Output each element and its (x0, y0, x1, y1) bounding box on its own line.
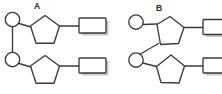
nucleotide-diagram: A B (0, 0, 222, 94)
circle-phosphate-icon-b2 (129, 53, 143, 67)
nucleotide-a2 (5, 52, 108, 83)
pentagon-sugar-icon-a2 (31, 56, 60, 84)
backbone-link-b (140, 44, 159, 55)
panel-label-b: B (156, 3, 162, 13)
nucleotide-b1 (129, 15, 222, 45)
phosphate-sugar-bond-b1 (143, 24, 157, 25)
rect-base-icon-b1 (203, 20, 222, 35)
rect-base-icon-a2 (79, 58, 106, 73)
diagram-canvas: A B (0, 0, 222, 94)
circle-phosphate-icon-b1 (129, 15, 143, 29)
pentagon-sugar-icon-b2 (157, 55, 185, 83)
nucleotide-b2 (129, 53, 222, 83)
panel-label-a: A (34, 1, 40, 11)
panel-a: A (5, 1, 108, 83)
pentagon-sugar-icon-a1 (31, 16, 60, 44)
rect-base-icon-b2 (203, 58, 222, 73)
circle-phosphate-icon-a2 (5, 52, 19, 66)
pentagon-sugar-icon-b1 (157, 17, 184, 45)
panel-b: B (129, 3, 222, 83)
nucleotide-a1 (5, 12, 108, 43)
phosphate-sugar-bond-b2 (143, 63, 157, 67)
rect-base-icon-a1 (79, 18, 106, 33)
circle-phosphate-icon-a1 (5, 12, 19, 26)
